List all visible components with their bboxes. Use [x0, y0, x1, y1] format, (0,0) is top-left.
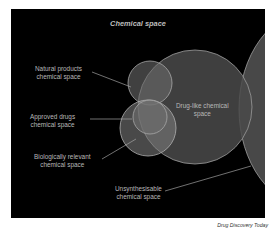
- label-line: Unsynthesisable: [115, 185, 162, 193]
- natural-products-region: [128, 61, 172, 105]
- chemical-space-panel: Chemical space Natural products chemical…: [11, 9, 265, 218]
- label-line: chemical space: [30, 121, 75, 129]
- biologically-relevant-label: Biologically relevant chemical space: [34, 153, 90, 169]
- unsynthesisable-label: Unsynthesisable chemical space: [115, 185, 162, 201]
- drug-like-label: Drug-like chemical space: [176, 102, 229, 118]
- label-line: chemical space: [115, 193, 162, 201]
- journal-caption: Drug Discovery Today: [217, 222, 268, 228]
- label-line: chemical space: [34, 161, 90, 169]
- natural-products-label: Natural products chemical space: [35, 65, 82, 81]
- label-line: space: [176, 110, 229, 118]
- approved-drugs-region: [133, 100, 167, 134]
- label-line: Natural products: [35, 65, 82, 73]
- approved-drugs-label: Approved drugs chemical space: [30, 113, 75, 129]
- unsynthesisable-leader: [165, 166, 251, 191]
- diagram-title: Chemical space: [11, 19, 265, 28]
- label-line: chemical space: [35, 73, 82, 81]
- label-line: Drug-like chemical: [176, 102, 229, 110]
- natural-products-leader: [92, 72, 131, 87]
- label-line: Biologically relevant: [34, 153, 90, 161]
- label-line: Approved drugs: [30, 113, 75, 121]
